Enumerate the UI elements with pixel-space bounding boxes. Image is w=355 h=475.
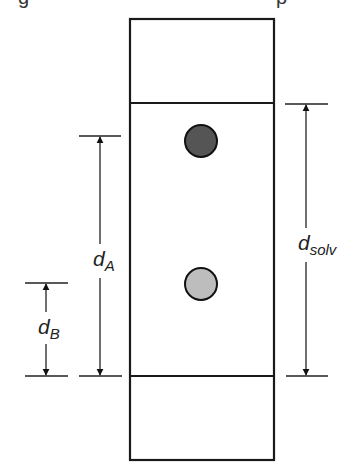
- spot-a-dark: [185, 125, 217, 157]
- d-a-label: dA: [93, 247, 115, 274]
- spot-b-light: [185, 268, 217, 300]
- dimension-d-b: dB: [25, 283, 68, 376]
- tlc-plate: [130, 19, 274, 460]
- tlc-plate-diagram: dA dB dsolv: [0, 0, 355, 475]
- d-b-label: dB: [38, 315, 60, 342]
- d-solv-label: dsolv: [298, 231, 338, 258]
- dimension-d-a: dA: [79, 136, 122, 376]
- dimension-d-solv: dsolv: [285, 104, 338, 376]
- plate-outline: [130, 19, 274, 460]
